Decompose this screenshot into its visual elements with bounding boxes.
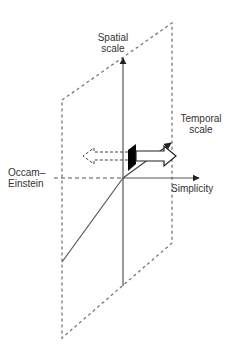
dashed-plane bbox=[62, 23, 172, 338]
spatial-scale-label: Spatial scale bbox=[88, 32, 138, 54]
dashed-left-arrow bbox=[83, 148, 128, 164]
spatial-label-line2: scale bbox=[88, 43, 138, 54]
spatial-label-line1: Spatial bbox=[88, 32, 138, 43]
temporal-label-line2: scale bbox=[176, 124, 226, 135]
occam-label-line1: Occam– bbox=[8, 167, 58, 178]
solid-right-arrow bbox=[136, 146, 176, 166]
occam-label-line2: Einstein bbox=[8, 178, 58, 189]
temporal-axis-line bbox=[62, 178, 123, 262]
occam-einstein-label: Occam– Einstein bbox=[8, 167, 58, 189]
temporal-scale-label: Temporal scale bbox=[176, 113, 226, 135]
temporal-label-line1: Temporal bbox=[176, 113, 226, 124]
simplicity-label: Simplicity bbox=[171, 183, 231, 194]
black-section-marker bbox=[128, 144, 136, 171]
